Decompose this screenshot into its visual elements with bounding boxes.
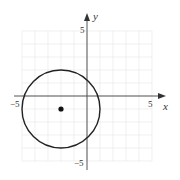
y-axis-label: y bbox=[92, 10, 98, 22]
x-axis-label: x bbox=[162, 100, 168, 112]
x-axis-arrow-icon bbox=[158, 93, 166, 99]
y-axis-arrow-icon bbox=[84, 13, 90, 21]
coordinate-plane: y x −5 5 5 −5 bbox=[0, 0, 180, 180]
x-tick-max: 5 bbox=[148, 99, 153, 109]
y-tick-min: −5 bbox=[74, 158, 84, 168]
x-tick-min: −5 bbox=[10, 99, 20, 109]
center-point bbox=[58, 106, 63, 111]
y-tick-max: 5 bbox=[80, 25, 85, 35]
